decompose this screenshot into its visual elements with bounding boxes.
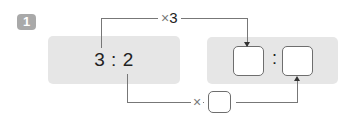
top-multiplier-value: 3 (169, 9, 177, 26)
given-ratio: 3 : 2 (48, 49, 180, 71)
arrow-up-icon (294, 76, 300, 81)
top-multiplier-label: ×3 (158, 10, 181, 26)
bottom-multiplier-label: × (191, 94, 203, 110)
multiply-icon: × (193, 94, 201, 110)
answer-colon: : (272, 48, 277, 69)
multiply-icon: × (161, 10, 169, 26)
problem-number-badge: 1 (17, 14, 36, 30)
given-ratio-panel: 3 : 2 (48, 36, 180, 84)
answer-ratio-panel: : (207, 37, 338, 84)
bottom-connector-left (127, 74, 128, 102)
arrow-down-icon (244, 42, 250, 47)
top-connector-left (101, 18, 102, 48)
multiplier-blank[interactable] (208, 91, 231, 113)
answer-blank-second[interactable] (282, 46, 313, 76)
answer-blank-first[interactable] (233, 46, 264, 76)
bottom-connector-right (297, 80, 298, 102)
